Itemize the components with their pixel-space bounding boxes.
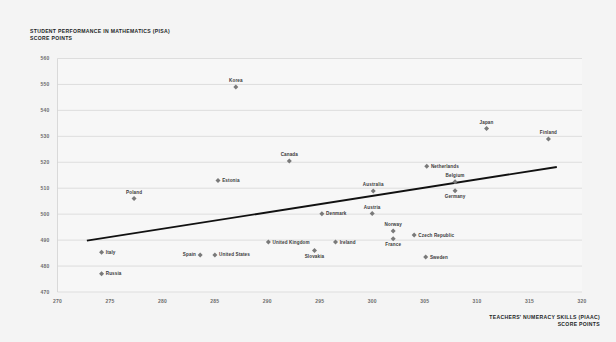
x-axis-tick-label: 280 [158, 298, 167, 304]
y-axis-tick-label: 560 [41, 55, 50, 61]
y-axis-tick-label: 510 [41, 185, 50, 191]
data-point-label: Germany [445, 194, 466, 199]
data-point[interactable]: Italy [99, 250, 116, 255]
y-axis-tick-label: 550 [41, 81, 50, 87]
data-point-label: France [385, 242, 401, 247]
data-point-label: Belgium [446, 173, 465, 178]
x-axis-title-line-1: TEACHERS' NUMERACY SKILLS (PIAAC) [489, 314, 600, 321]
x-axis-tick-label: 290 [263, 298, 272, 304]
x-axis-tick-label: 310 [473, 298, 482, 304]
data-point-label: Spain [183, 252, 196, 257]
y-axis-tick-label: 490 [41, 237, 50, 243]
data-point[interactable]: Spain [183, 252, 203, 257]
x-axis-tick-label: 285 [210, 298, 219, 304]
data-point-label: Finland [540, 130, 557, 135]
x-axis-ticks-group: 270275280285290295300305310315320 [53, 298, 586, 304]
x-axis-tick-label: 295 [315, 298, 324, 304]
data-point-label: Italy [106, 250, 116, 255]
data-point-label: Korea [229, 78, 243, 83]
data-point-label: Canada [281, 152, 299, 157]
data-point-label: Ireland [340, 240, 356, 245]
data-point-label: United Kingdom [273, 240, 310, 245]
data-point-label: Netherlands [431, 164, 459, 169]
data-point-label: Russia [106, 271, 122, 276]
y-axis-tick-label: 480 [41, 263, 50, 269]
x-axis-tick-label: 275 [105, 298, 114, 304]
chart-container: STUDENT PERFORMANCE IN MATHEMATICS (PISA… [0, 0, 616, 342]
x-axis-title-line-2: SCORE POINTS [489, 321, 600, 328]
data-point[interactable]: Czech Republic [412, 232, 455, 237]
x-axis-tick-label: 270 [53, 298, 62, 304]
y-axis-ticks-group: 470480490500510520530540550560 [41, 55, 50, 294]
data-point-label: Slovakia [305, 254, 325, 259]
x-axis-tick-label: 315 [525, 298, 534, 304]
y-axis-tick-label: 530 [41, 133, 50, 139]
x-axis-tick-label: 300 [368, 298, 377, 304]
data-point-label: Czech Republic [418, 233, 454, 238]
data-point-label: Sweden [430, 255, 448, 260]
x-axis-tick-label: 320 [578, 298, 587, 304]
data-point-label: Australia [363, 182, 384, 187]
scatter-plot: 470480490500510520530540550560 270275280… [0, 0, 616, 342]
y-axis-tick-label: 470 [41, 289, 50, 295]
data-point-label: United States [219, 252, 250, 257]
data-point-label: Estonia [222, 178, 240, 183]
y-axis-tick-label: 500 [41, 211, 50, 217]
data-point-label: Poland [126, 190, 142, 195]
data-point[interactable]: United Kingdom [266, 239, 310, 244]
y-axis-tick-label: 520 [41, 159, 50, 165]
x-axis-tick-label: 305 [420, 298, 429, 304]
data-point-label: Japan [480, 120, 494, 125]
data-point-label: Austria [364, 205, 381, 210]
data-point-label: Norway [385, 222, 403, 227]
data-point-label: Denmark [326, 211, 347, 216]
x-axis-title: TEACHERS' NUMERACY SKILLS (PIAAC) SCORE … [489, 314, 600, 328]
y-axis-tick-label: 540 [41, 107, 50, 113]
